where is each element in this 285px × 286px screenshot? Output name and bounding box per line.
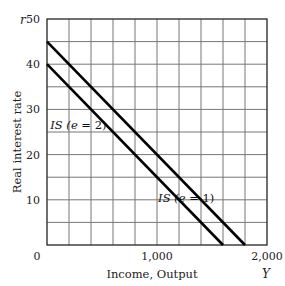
x-tick-label: 1,000: [141, 250, 173, 263]
curve-label: IS (e = 1): [157, 191, 214, 205]
curves: IS (e = 1)IS (e = 2): [47, 42, 245, 245]
y-tick-label: 40: [26, 58, 40, 71]
y-tick-labels: 10203040500: [26, 13, 41, 263]
y-tick-label: 30: [26, 103, 40, 116]
y-tick-label: 10: [26, 194, 40, 207]
y-tick-label: 20: [26, 149, 40, 162]
is-curve-chart: IS (e = 1)IS (e = 2) 10203040500 1,0002,…: [0, 0, 285, 286]
curve-label: IS (e = 2): [49, 118, 106, 132]
x-tick-labels: 1,0002,000: [141, 250, 283, 263]
x-tick-label: 2,000: [251, 250, 283, 263]
is-curve-line: [47, 42, 245, 245]
origin-tick-label: 0: [34, 250, 41, 263]
y-tick-label: 50: [26, 13, 40, 26]
x-axis-label: Income, Output: [106, 267, 198, 281]
x-axis-variable: Y: [262, 267, 271, 281]
y-axis-label: Real interest rate: [10, 91, 24, 194]
